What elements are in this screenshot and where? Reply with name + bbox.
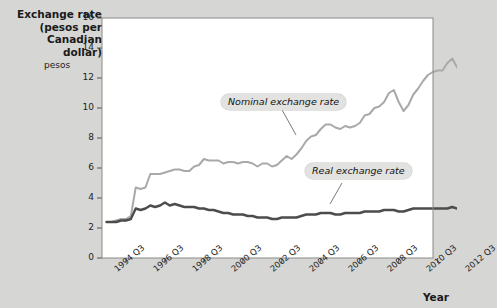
plot-background (102, 18, 433, 258)
y-tick-label: 12 (72, 72, 94, 82)
annotation-real-exchange-rate: Real exchange rate (305, 163, 412, 179)
y-tick-label: 6 (72, 162, 94, 172)
y-tick-label: 2 (72, 222, 94, 232)
x-tick-label: 2012 Q3 (463, 243, 497, 274)
y-tick-label: 8 (72, 132, 94, 142)
y-tick-label: 16 (72, 12, 94, 22)
y-tick-label: 4 (72, 192, 94, 202)
y-tick-label: 14 (72, 42, 94, 52)
y-tick-label: 10 (72, 102, 94, 112)
annotation-nominal-exchange-rate: Nominal exchange rate (221, 94, 346, 110)
y-tick-label: 0 (72, 252, 94, 262)
